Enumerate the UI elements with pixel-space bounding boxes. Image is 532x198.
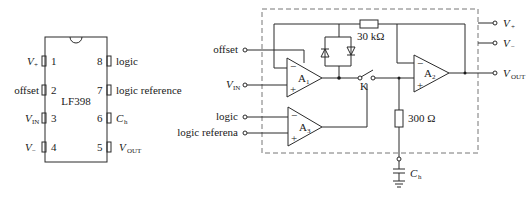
input-logic-reference: logic referena (177, 126, 288, 138)
pin-tab (107, 85, 111, 95)
input-vin: V IN (226, 78, 287, 92)
terminal-icon (493, 71, 497, 75)
feedback-wire-a2-minus (397, 24, 414, 63)
logic-reference-label: logic referena (177, 126, 238, 138)
chip-package: LF398 1 V + 2 offset 3 V IN 4 V − 8 (14, 37, 182, 162)
chip-notch (70, 37, 82, 43)
a3-label-sub: 3 (307, 127, 311, 135)
vminus-label-sub: − (511, 43, 515, 51)
plus-sign: + (290, 83, 296, 95)
pin-label: offset (14, 84, 39, 96)
pin-number: 3 (51, 112, 57, 124)
diagram-canvas: LF398 1 V + 2 offset 3 V IN 4 V − 8 (0, 0, 532, 198)
resistor-body (395, 110, 403, 127)
pin-6: 6 C h (97, 112, 128, 126)
pin-number: 2 (51, 84, 57, 96)
opamp-a1: − + A 1 (287, 58, 322, 97)
capacitor-ch: C h (393, 161, 422, 187)
terminal-icon (397, 157, 401, 161)
a1-label-sub: 1 (306, 78, 310, 86)
resistor-body (360, 20, 378, 28)
pin-label-sub: − (32, 147, 36, 155)
pin-number: 7 (97, 84, 103, 96)
vminus-label: V (503, 37, 511, 49)
pin-7: 7 logic reference (97, 84, 182, 96)
pin-tab (107, 142, 111, 152)
a2-label-sub: 2 (432, 73, 436, 81)
vin-label-sub: IN (233, 84, 240, 92)
terminal-icon (493, 21, 497, 25)
minus-sign: − (290, 60, 296, 72)
pin-number: 4 (51, 141, 57, 153)
pin-8: 8 logic (97, 55, 138, 67)
pin-2: 2 offset (14, 84, 56, 96)
ground-icon (393, 181, 405, 187)
terminal-icon (493, 41, 497, 45)
terminal-icon (243, 131, 247, 135)
chip-name: LF398 (61, 95, 91, 107)
a1-label: A (298, 72, 306, 84)
junction-dot (398, 77, 401, 80)
pin-1: 1 V + (27, 55, 57, 69)
pin-label-sub: OUT (127, 147, 142, 155)
input-logic: logic (216, 110, 288, 122)
pin-number: 6 (97, 112, 103, 124)
vout-label: V (503, 67, 511, 79)
pin-label-sub: IN (32, 118, 39, 126)
pin-tab (107, 113, 111, 123)
schematic: offset V IN logic logic referena − + A 1 (177, 9, 526, 187)
pin-number: 5 (97, 141, 103, 153)
resistor-label: 300 Ω (408, 112, 435, 124)
minus-sign: − (417, 57, 423, 69)
junction-dot (464, 72, 467, 75)
offset-label: offset (213, 43, 238, 55)
resistor-30k: 30 kΩ (357, 20, 384, 42)
capacitor-icon (393, 161, 405, 181)
resistor-label: 30 kΩ (357, 30, 384, 42)
diode-pair (321, 24, 355, 78)
pin-label-sub: + (34, 61, 38, 69)
switch-blade (361, 70, 373, 77)
pin-5: 5 V OUT (97, 141, 142, 155)
terminal-icon (243, 115, 247, 119)
opamp-a2: − + A 2 (414, 55, 449, 92)
capacitor-label-sub: h (418, 173, 422, 181)
opamp-a3: − + A 3 (288, 107, 322, 146)
a3-label: A (299, 121, 307, 133)
pin-label-sub: h (124, 118, 128, 126)
plus-sign: + (291, 132, 297, 144)
terminal-icon (243, 83, 247, 87)
diode-loop (325, 37, 351, 66)
pin-number: 1 (51, 55, 57, 67)
minus-sign: − (291, 109, 297, 121)
vplus-label: V (503, 17, 511, 29)
pin-3: 3 V IN (25, 112, 57, 126)
resistor-300: 300 Ω (395, 110, 435, 127)
logic-label: logic (216, 110, 238, 122)
pin-label: logic (116, 55, 138, 67)
pin-number: 8 (97, 55, 103, 67)
switch-contact (371, 76, 375, 80)
capacitor-label: C (410, 167, 418, 179)
a2-label: A (424, 67, 432, 79)
vplus-label-sub: + (511, 23, 515, 31)
pin-label: C (116, 112, 124, 124)
pin-label: logic reference (116, 84, 182, 96)
pin-label: V (119, 141, 127, 153)
pin-tab (107, 56, 111, 66)
terminal-icon (243, 48, 247, 52)
plus-sign: + (417, 79, 423, 91)
pin-4: 4 V − (25, 141, 57, 155)
vout-label-sub: OUT (511, 73, 526, 81)
junction-dot (337, 76, 341, 80)
